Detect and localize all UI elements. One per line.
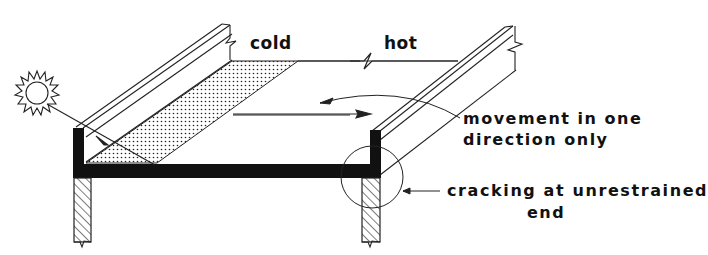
left-wall (74, 178, 91, 242)
label-movement-line1: movement in one (463, 109, 642, 128)
far-edge-break (298, 53, 458, 69)
label-hot: hot (384, 33, 417, 53)
double-arrow-icon (233, 110, 371, 118)
sun-icon (15, 71, 59, 115)
right-wall (362, 178, 380, 242)
label-cold: cold (250, 33, 292, 53)
label-cracking-line1: cracking at unrestrained (447, 181, 708, 200)
label-movement-line2: direction only (463, 130, 609, 149)
supporting-walls (74, 178, 380, 247)
heated-zone-stipple (86, 61, 298, 163)
label-cracking-line2: end (527, 203, 565, 222)
